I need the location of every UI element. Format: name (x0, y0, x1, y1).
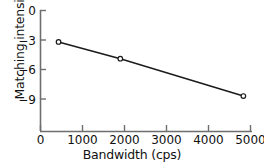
x-tick-label: 4000 (193, 133, 224, 147)
x-tick-label: 3000 (151, 133, 182, 147)
chart-figure: 0 −3 −6 −9 0 1000 2000 3000 4000 5000 Ma… (0, 0, 264, 165)
x-axis-label: Bandwidth (cps) (0, 147, 264, 162)
data-point-marker (241, 94, 246, 99)
x-tick-label: 5000 (235, 133, 264, 147)
x-tick-marks (41, 125, 251, 131)
data-point-marker (118, 56, 123, 61)
data-point-marker (56, 40, 61, 45)
x-tick-label: 1000 (67, 133, 98, 147)
data-line-series-1 (59, 42, 244, 96)
x-tick-label: 2000 (109, 133, 140, 147)
x-tick-label: 0 (37, 133, 45, 147)
line-chart-plot: 0 −3 −6 −9 0 1000 2000 3000 4000 5000 (0, 0, 264, 165)
y-tick-label: 0 (28, 4, 36, 18)
x-tick-labels: 0 1000 2000 3000 4000 5000 (37, 133, 264, 147)
y-axis-label: Matching intensity (db) (12, 0, 27, 100)
